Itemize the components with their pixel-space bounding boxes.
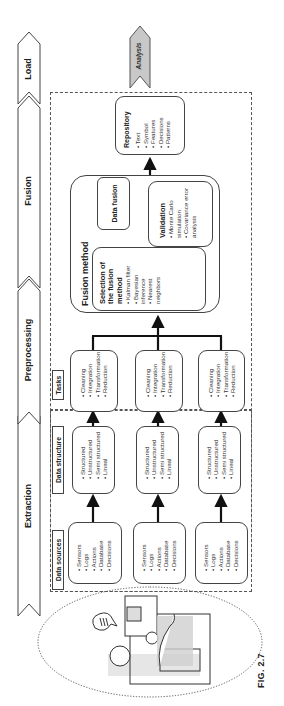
etl-fusion-diagram: Extraction Preprocessing Fusion Load Ana…: [0, 0, 284, 706]
figure-caption: FIG. 2.7: [256, 638, 266, 688]
person-at-computer-illustration: [0, 0, 284, 706]
